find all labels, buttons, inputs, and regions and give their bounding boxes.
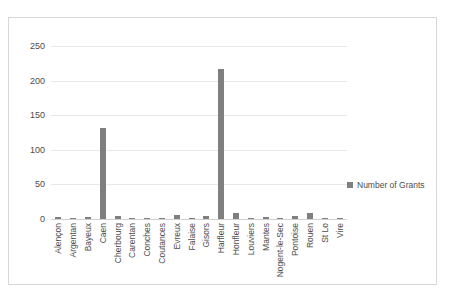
bar-slot[interactable] bbox=[110, 46, 125, 219]
x-axis-tick-label: Cherbourg bbox=[114, 223, 123, 263]
bar[interactable] bbox=[277, 218, 283, 219]
bar[interactable] bbox=[70, 218, 76, 219]
x-axis-tick-label: Carentan bbox=[128, 223, 137, 258]
bar[interactable] bbox=[263, 217, 269, 219]
bar-slot[interactable] bbox=[51, 46, 66, 219]
x-axis-label-slot: Nogent-le-Sec bbox=[273, 221, 288, 287]
bar[interactable] bbox=[203, 216, 209, 219]
x-axis-tick-label: Caen bbox=[99, 223, 108, 243]
x-axis-label-slot: Cherbourg bbox=[110, 221, 125, 287]
bar[interactable] bbox=[159, 218, 165, 219]
x-axis-label-slot: Caen bbox=[95, 221, 110, 287]
y-axis-tick-label: 50 bbox=[35, 180, 45, 189]
bar[interactable] bbox=[144, 218, 150, 219]
gridline bbox=[51, 219, 347, 220]
bar[interactable] bbox=[218, 69, 224, 219]
x-axis-tick-label: Gisors bbox=[202, 223, 211, 248]
bar-slot[interactable] bbox=[184, 46, 199, 219]
x-axis-tick-label: Bayeux bbox=[84, 223, 93, 251]
x-axis-label-slot: Evreux bbox=[169, 221, 184, 287]
bar-slot[interactable] bbox=[169, 46, 184, 219]
y-axis-tick-label: 100 bbox=[30, 145, 45, 154]
bar-slot[interactable] bbox=[81, 46, 96, 219]
x-axis-label-slot: Pontoise bbox=[288, 221, 303, 287]
x-axis-tick-label: Argentan bbox=[69, 223, 78, 258]
bar-slot[interactable] bbox=[273, 46, 288, 219]
bar-slot[interactable] bbox=[332, 46, 347, 219]
bar[interactable] bbox=[337, 218, 343, 219]
bar-slot[interactable] bbox=[243, 46, 258, 219]
bar-slot[interactable] bbox=[229, 46, 244, 219]
x-axis-label-slot: Argentan bbox=[66, 221, 81, 287]
x-axis-tick-label: St Lo bbox=[321, 223, 330, 243]
x-axis-label-slot: St Lo bbox=[317, 221, 332, 287]
x-axis-label-slot: Bayeux bbox=[81, 221, 96, 287]
bar-slot[interactable] bbox=[214, 46, 229, 219]
bar-slot[interactable] bbox=[288, 46, 303, 219]
bar[interactable] bbox=[100, 128, 106, 219]
y-axis-tick-label: 250 bbox=[30, 42, 45, 51]
bar-slot[interactable] bbox=[66, 46, 81, 219]
bar[interactable] bbox=[85, 217, 91, 219]
chart-legend: Number of Grants bbox=[347, 181, 425, 190]
x-axis-label-slot: Vire bbox=[332, 221, 347, 287]
x-axis-tick-label: Falaise bbox=[188, 223, 197, 250]
x-axis-tick-label: Honfleur bbox=[232, 223, 241, 255]
bar[interactable] bbox=[174, 215, 180, 219]
bar-slot[interactable] bbox=[199, 46, 214, 219]
x-axis-label-slot: Honfleur bbox=[229, 221, 244, 287]
x-axis-label-slot: Rouen bbox=[303, 221, 318, 287]
bar[interactable] bbox=[248, 218, 254, 219]
x-axis-tick-label: Coutances bbox=[158, 223, 167, 264]
bar-slot[interactable] bbox=[125, 46, 140, 219]
x-axis-tick-label: Alençon bbox=[54, 223, 63, 254]
bar-slot[interactable] bbox=[95, 46, 110, 219]
x-axis-tick-label: Rouen bbox=[306, 223, 315, 248]
y-axis-tick-label: 0 bbox=[40, 215, 45, 224]
x-axis-label-slot: Mantes bbox=[258, 221, 273, 287]
bar-slot[interactable] bbox=[258, 46, 273, 219]
bar[interactable] bbox=[322, 218, 328, 219]
bar-slot[interactable] bbox=[303, 46, 318, 219]
x-axis-label-slot: Alençon bbox=[51, 221, 66, 287]
y-axis-tick-label: 150 bbox=[30, 111, 45, 120]
x-axis-label-slot: Falaise bbox=[184, 221, 199, 287]
bar[interactable] bbox=[292, 216, 298, 219]
x-axis-tick-label: Harfleur bbox=[217, 223, 226, 253]
x-axis-label-slot: Louviers bbox=[243, 221, 258, 287]
legend-label: Number of Grants bbox=[357, 181, 425, 190]
legend-swatch-icon bbox=[347, 182, 353, 188]
x-axis-tick-label: Conches bbox=[143, 223, 152, 257]
bars-layer bbox=[51, 46, 347, 219]
x-axis-label-slot: Coutances bbox=[155, 221, 170, 287]
x-axis-label-slot: Carentan bbox=[125, 221, 140, 287]
bar[interactable] bbox=[233, 213, 239, 219]
x-axis-tick-label: Louviers bbox=[247, 223, 256, 255]
bar[interactable] bbox=[189, 218, 195, 219]
y-axis-tick-label: 200 bbox=[30, 76, 45, 85]
x-axis-label-slot: Harfleur bbox=[214, 221, 229, 287]
bar[interactable] bbox=[129, 218, 135, 219]
x-axis-labels: AlençonArgentanBayeuxCaenCherbourgCarent… bbox=[51, 221, 347, 287]
bar[interactable] bbox=[55, 217, 61, 219]
x-axis-tick-label: Mantes bbox=[262, 223, 271, 251]
x-axis-label-slot: Conches bbox=[140, 221, 155, 287]
x-axis-tick-label: Pontoise bbox=[291, 223, 300, 256]
x-axis-label-slot: Gisors bbox=[199, 221, 214, 287]
x-axis-tick-label: Nogent-le-Sec bbox=[276, 223, 285, 277]
bar-slot[interactable] bbox=[155, 46, 170, 219]
bar-slot[interactable] bbox=[140, 46, 155, 219]
chart-frame: 050100150200250 AlençonArgentanBayeuxCae… bbox=[8, 17, 437, 285]
bar[interactable] bbox=[115, 216, 121, 219]
x-axis-tick-label: Evreux bbox=[173, 223, 182, 249]
plot-area: 050100150200250 bbox=[51, 46, 347, 219]
bar-slot[interactable] bbox=[317, 46, 332, 219]
bar[interactable] bbox=[307, 213, 313, 219]
x-axis-tick-label: Vire bbox=[336, 223, 345, 238]
